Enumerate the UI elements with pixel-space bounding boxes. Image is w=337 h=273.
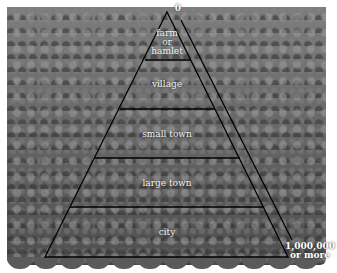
apex-label: 0 bbox=[172, 4, 184, 13]
base-label-line: or more bbox=[283, 251, 337, 260]
level-label-farm-or-hamlet: farm or hamlet bbox=[137, 29, 197, 56]
level-label-village: village bbox=[137, 80, 197, 89]
level-label-small-town: small town bbox=[127, 130, 207, 139]
level-label-city: city bbox=[137, 228, 197, 237]
level-label-line: hamlet bbox=[137, 47, 197, 56]
level-label-large-town: large town bbox=[127, 179, 207, 188]
base-label: 1,000,000 or more bbox=[283, 242, 337, 260]
